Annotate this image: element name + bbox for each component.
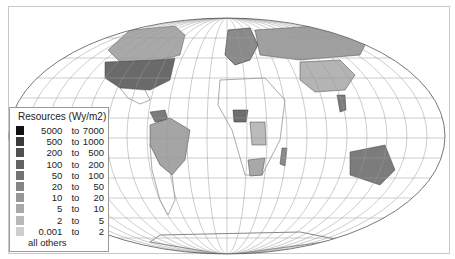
legend-to: 2 [79, 226, 104, 237]
legend-swatch [16, 204, 24, 213]
legend-to: 1000 [79, 136, 104, 147]
legend-swatch [16, 171, 24, 180]
legend-row: 500to1000 [16, 136, 104, 147]
legend-to-word: to [62, 215, 79, 226]
region-canada [108, 26, 185, 62]
legend-to: 20 [79, 192, 104, 203]
legend-title: Resources (Wy/m2) [18, 111, 104, 122]
legend-row: 10to20 [16, 192, 104, 203]
legend-to: 200 [79, 159, 104, 170]
region-australia [350, 145, 395, 185]
legend-to: 50 [79, 181, 104, 192]
legend-row: 20to50 [16, 181, 104, 192]
legend-swatch [16, 148, 24, 157]
legend-from: 500 [30, 136, 62, 147]
legend-to-word: to [62, 170, 79, 181]
legend-to: 500 [79, 147, 104, 158]
legend-swatch [16, 126, 24, 135]
legend-to-word: to [62, 136, 79, 147]
legend-from: 10 [30, 192, 62, 203]
legend-row: 100to200 [16, 159, 104, 170]
legend-to-word: to [62, 159, 79, 170]
legend-swatch [16, 216, 24, 225]
legend-to-word: to [62, 181, 79, 192]
legend-to-word: to [62, 125, 79, 136]
legend-from: 0.001 [30, 226, 62, 237]
legend-to-word: to [62, 203, 79, 214]
legend-swatch [16, 137, 24, 146]
region-south-africa [248, 158, 265, 176]
legend-row: 5to10 [16, 203, 104, 214]
legend-swatch [16, 193, 24, 202]
legend-to-word: to [62, 147, 79, 158]
legend-from: 50 [30, 170, 62, 181]
legend-row: 5000to7000 [16, 125, 104, 136]
legend-row: 200to500 [16, 147, 104, 158]
legend-to-word: to [62, 192, 79, 203]
legend-swatch [16, 182, 24, 191]
legend-swatch [16, 227, 24, 236]
region-dr-congo [250, 122, 266, 145]
legend-to: 10 [79, 203, 104, 214]
region-nigeria [233, 110, 248, 122]
legend-to: 5 [79, 215, 104, 226]
legend-from: 5000 [30, 125, 62, 136]
legend-from: 2 [30, 215, 62, 226]
legend-swatch [16, 160, 24, 169]
region-thailand [337, 95, 346, 112]
region-antarctica [150, 232, 340, 255]
legend-from: 200 [30, 147, 62, 158]
legend-to: 7000 [79, 125, 104, 136]
legend-from: 5 [30, 203, 62, 214]
legend-to: 100 [79, 170, 104, 181]
legend-from: 20 [30, 181, 62, 192]
legend-others-label: all others [28, 237, 104, 248]
legend-row: 50to100 [16, 170, 104, 181]
legend-row: 0.001to2 [16, 226, 104, 237]
legend: Resources (Wy/m2) 5000to7000500to1000200… [9, 107, 109, 252]
region-china [300, 60, 355, 92]
legend-from: 100 [30, 159, 62, 170]
legend-row: 2to5 [16, 215, 104, 226]
legend-to-word: to [62, 226, 79, 237]
